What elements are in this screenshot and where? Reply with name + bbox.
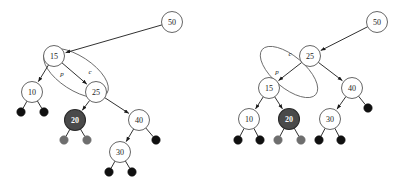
nil-edge-l10a <box>23 101 27 108</box>
tree-node-label-l50: 50 <box>168 18 176 27</box>
nil-leaf-r30b <box>337 136 345 144</box>
tree-edge-l15-to-l10 <box>38 65 48 82</box>
tree-node-label-l25: 25 <box>92 88 100 97</box>
tree-node-label-l15: 15 <box>50 52 58 61</box>
tree-edge-l50-to-l15 <box>66 25 162 53</box>
nil-edge-r30b <box>335 128 339 136</box>
nil-leaf-l10a <box>17 108 25 116</box>
pointer-label-p-before: p <box>59 70 64 78</box>
tree-node-label-r10: 10 <box>245 115 253 124</box>
nil-leaf-l20b <box>83 136 91 144</box>
tree-edge-r15-to-r10 <box>256 97 264 109</box>
tree-edge-r50-to-r25 <box>321 27 368 51</box>
nil-leaf-r20a <box>274 136 282 144</box>
nil-leaves-layer <box>17 96 372 176</box>
tree-node-label-r30: 30 <box>326 115 334 124</box>
nil-edge-r40b <box>359 96 366 105</box>
nil-leaf-r40b <box>364 104 372 112</box>
pointer-label-c-before: c <box>88 68 92 76</box>
tree-edge-r25-to-r15 <box>279 62 302 80</box>
tree-edge-l25-to-l40 <box>105 98 129 114</box>
diagram-canvas: 5015102520403050251540102030 pccp <box>0 0 407 187</box>
nil-edge-r20a <box>280 128 284 136</box>
tree-node-label-r15: 15 <box>265 84 273 93</box>
tree-node-label-r50: 50 <box>373 18 381 27</box>
tree-node-label-r25: 25 <box>306 52 314 61</box>
nil-leaf-l20a <box>60 136 68 144</box>
tree-nodes-layer: 5015102520403050251540102030 <box>22 12 388 163</box>
highlight-ellipses-layer <box>36 37 326 107</box>
tree-node-label-l20: 20 <box>71 116 79 125</box>
pointer-labels-layer: pccp <box>59 50 292 78</box>
tree-node-label-l30: 30 <box>116 148 124 157</box>
nil-leaf-l40b <box>152 136 160 144</box>
nil-edge-l30a <box>111 161 115 168</box>
nil-edge-r10b <box>254 128 258 136</box>
nil-edge-r30a <box>321 128 325 136</box>
tree-node-label-r40: 40 <box>348 84 356 93</box>
nil-edge-l30b <box>125 161 129 168</box>
nil-leaf-r10b <box>256 136 264 144</box>
tree-edge-r40-to-r30 <box>337 97 346 110</box>
tree-edge-l40-to-l30 <box>126 129 133 142</box>
nil-edge-l10b <box>37 101 41 108</box>
nil-leaf-r20b <box>297 136 305 144</box>
pointer-label-p-after: p <box>274 68 279 76</box>
nil-leaf-r30a <box>315 136 323 144</box>
nil-leaf-r10a <box>234 136 242 144</box>
tree-node-label-l10: 10 <box>28 88 36 97</box>
nil-edge-l40b <box>146 128 153 137</box>
tree-edge-l15-to-l25 <box>62 63 87 84</box>
tree-edge-l25-to-l20 <box>82 100 89 110</box>
nil-leaf-l30b <box>128 168 136 176</box>
nil-leaf-l30a <box>105 168 113 176</box>
nil-leaf-l10b <box>40 108 48 116</box>
nil-edge-r10a <box>240 128 244 136</box>
tree-node-label-r20: 20 <box>285 115 293 124</box>
tree-rotation-figure: 5015102520403050251540102030 pccp <box>0 0 407 187</box>
nil-edge-l20b <box>80 129 84 136</box>
nil-edge-r20b <box>294 128 299 136</box>
tree-edge-r15-to-r20 <box>275 97 283 109</box>
tree-edge-r25-to-r40 <box>318 62 342 80</box>
tree-node-label-l40: 40 <box>135 116 143 125</box>
nil-edge-l20a <box>66 129 70 136</box>
tree-edges-layer <box>38 25 367 142</box>
